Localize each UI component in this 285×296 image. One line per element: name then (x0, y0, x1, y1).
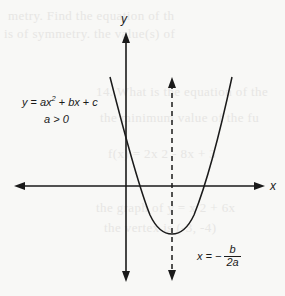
symmetry-denominator: 2a (224, 257, 240, 269)
x-axis-right-arrow-icon (254, 182, 265, 190)
symmetry-bottom-arrow-icon (168, 270, 176, 281)
y-axis-bottom-arrow-icon (122, 271, 130, 282)
x-axis-left-arrow-icon (14, 182, 25, 190)
equation-equals: = (31, 96, 37, 108)
equation-term-b: bx (68, 96, 80, 108)
symmetry-prefix: x = − (197, 250, 221, 262)
equation-plus-1: + (59, 96, 65, 108)
x-axis-label: x (270, 179, 276, 193)
y-axis-label: y (121, 12, 127, 26)
symmetry-fraction: b 2a (224, 244, 240, 268)
symmetry-top-arrow-icon (168, 77, 176, 88)
equation-label: y=ax2+bx+c (22, 96, 98, 108)
y-axis-top-arrow-icon (122, 32, 130, 43)
equation-plus-2: + (83, 96, 89, 108)
y-axis (122, 32, 130, 282)
axis-of-symmetry-label: x = − b 2a (197, 244, 241, 268)
parabola-figure: metry. Find the equation of th is of sym… (0, 0, 285, 296)
equation-condition-label: a > 0 (44, 113, 69, 125)
symmetry-numerator: b (227, 244, 239, 256)
equation-lhs: y (22, 96, 28, 108)
axis-of-symmetry-line (168, 77, 176, 281)
equation-exponent: 2 (52, 94, 56, 103)
equation-term-c: c (92, 96, 98, 108)
parabola-curve (110, 77, 232, 234)
equation-term-a: ax (40, 96, 52, 108)
coordinate-plane (0, 0, 285, 296)
